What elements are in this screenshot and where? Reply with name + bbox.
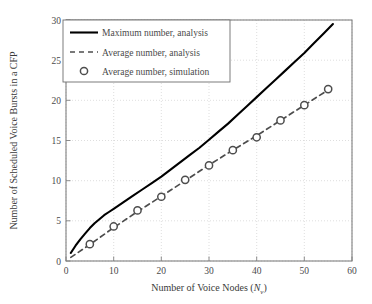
data-point-marker — [205, 162, 212, 169]
x-tick-label: 30 — [204, 266, 214, 276]
data-point-marker — [229, 147, 236, 154]
data-point-marker — [325, 85, 332, 92]
data-point-marker — [134, 207, 141, 214]
y-tick-labels: 0 5 10 15 20 25 30 — [52, 16, 62, 267]
x-tick-label: 20 — [157, 266, 167, 276]
legend-label-average-analysis: Average number, analysis — [102, 48, 200, 58]
y-tick-label: 0 — [56, 257, 61, 267]
y-tick-label: 15 — [52, 136, 62, 146]
data-point-marker — [182, 176, 189, 183]
y-axis-title: Number of Scheduled Voice Bursts in a CF… — [8, 51, 19, 230]
x-tick-labels: 0 10 20 30 40 50 60 — [64, 266, 357, 276]
x-tick-label: 0 — [64, 266, 69, 276]
data-point-marker — [253, 134, 260, 141]
y-tick-label: 10 — [52, 176, 62, 186]
data-point-marker — [86, 241, 93, 248]
x-tick-label: 60 — [347, 266, 357, 276]
svg-text:Number of Voice Nodes (Nv): Number of Voice Nodes (Nv) — [151, 282, 267, 296]
legend-label-maximum-analysis: Maximum number, analysis — [102, 28, 208, 38]
y-tick-label: 30 — [52, 16, 62, 26]
chart-figure: 0 10 20 30 40 50 60 0 5 10 15 20 25 30 N… — [0, 0, 372, 304]
legend-label-average-simulation: Average number, simulation — [102, 67, 210, 77]
y-tick-label: 20 — [52, 96, 62, 106]
x-axis-title-close: ) — [263, 282, 266, 294]
x-tick-label: 40 — [252, 266, 262, 276]
data-point-marker — [110, 223, 117, 230]
x-tick-label: 50 — [300, 266, 310, 276]
x-axis-title-main: Number of Voice Nodes ( — [151, 282, 254, 294]
data-point-marker — [277, 117, 284, 124]
y-tick-label: 5 — [56, 216, 61, 226]
x-tick-label: 10 — [109, 266, 119, 276]
x-axis-title: Number of Voice Nodes (Nv) — [151, 282, 267, 296]
y-tick-label: 25 — [52, 56, 62, 66]
legend: Maximum number, analysis Average number,… — [63, 20, 230, 82]
data-point-marker — [158, 193, 165, 200]
data-point-marker — [301, 102, 308, 109]
chart-canvas: 0 10 20 30 40 50 60 0 5 10 15 20 25 30 N… — [0, 0, 372, 304]
